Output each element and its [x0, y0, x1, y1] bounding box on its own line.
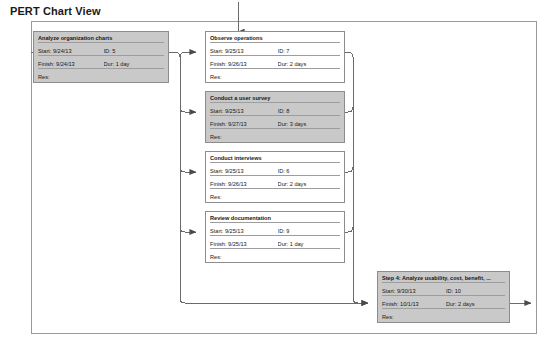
page-title: PERT Chart View	[10, 5, 101, 17]
node-res: Res:	[210, 194, 222, 200]
node-dur: Dur: 1 day	[278, 241, 340, 247]
node-finish-row: Finish: 9/26/13 Dur: 2 days	[206, 57, 344, 70]
node-finish: Finish: 9/26/13	[210, 61, 278, 67]
node-id: ID: 10	[446, 288, 505, 294]
row-divider	[38, 42, 164, 43]
node-dur: Dur: 2 days	[278, 181, 340, 187]
node-dur: Dur: 1 day	[104, 61, 164, 67]
node-title: Conduct interviews	[210, 155, 340, 161]
row-divider	[38, 55, 164, 56]
node-title-row: Analyze organization charts	[34, 32, 168, 44]
node-finish-row: Finish: 9/24/13 Dur: 1 day	[34, 57, 168, 70]
node-start: Start: 9/25/13	[210, 168, 278, 174]
node-start-row: Start: 9/30/13 ID: 10	[378, 284, 509, 297]
node-finish: Finish: 10/1/13	[382, 301, 446, 307]
row-divider	[210, 55, 340, 56]
node-res-row: Res:	[206, 70, 344, 83]
node-title: Observe operations	[210, 35, 340, 41]
node-dur: Dur: 2 days	[446, 301, 505, 307]
node-finish-row: Finish: 9/26/13 Dur: 2 days	[206, 177, 344, 190]
row-divider	[382, 282, 505, 283]
pert-node-conduct-a-user-survey[interactable]: Conduct a user survey Start: 9/25/13 ID:…	[205, 91, 345, 143]
node-title-row: Conduct interviews	[206, 152, 344, 164]
node-res: Res:	[382, 314, 394, 320]
node-title: Analyze organization charts	[38, 35, 164, 41]
row-divider	[210, 102, 340, 103]
pert-node-review-documentation[interactable]: Review documentation Start: 9/25/13 ID: …	[205, 211, 345, 263]
pert-node-analyze-organization-charts[interactable]: Analyze organization charts Start: 9/24/…	[33, 31, 169, 83]
row-divider	[38, 68, 164, 69]
node-start: Start: 9/25/13	[210, 228, 278, 234]
pert-node-observe-operations[interactable]: Observe operations Start: 9/25/13 ID: 7 …	[205, 31, 345, 83]
node-res: Res:	[210, 134, 222, 140]
node-id: ID: 7	[278, 48, 340, 54]
row-divider	[210, 68, 340, 69]
node-res-row: Res:	[206, 190, 344, 203]
row-divider	[210, 175, 340, 176]
row-divider	[210, 248, 340, 249]
node-title-row: Review documentation	[206, 212, 344, 224]
node-res: Res:	[210, 74, 222, 80]
node-dur: Dur: 3 days	[278, 121, 340, 127]
node-finish: Finish: 9/26/13	[210, 181, 278, 187]
node-id: ID: 5	[104, 48, 164, 54]
node-res-row: Res:	[206, 250, 344, 263]
row-divider	[210, 188, 340, 189]
node-start: Start: 9/24/13	[38, 48, 104, 54]
node-finish: Finish: 9/24/13	[38, 61, 104, 67]
node-start-row: Start: 9/25/13 ID: 6	[206, 164, 344, 177]
row-divider	[210, 222, 340, 223]
node-id: ID: 6	[278, 168, 340, 174]
node-start-row: Start: 9/25/13 ID: 9	[206, 224, 344, 237]
node-res-row: Res:	[378, 310, 509, 323]
node-start: Start: 9/30/13	[382, 288, 446, 294]
node-title-row: Step 4: Analyze usability, cost, benefit…	[378, 272, 509, 284]
node-title-row: Observe operations	[206, 32, 344, 44]
node-title: Step 4: Analyze usability, cost, benefit…	[382, 275, 505, 281]
node-id: ID: 8	[278, 108, 340, 114]
node-start: Start: 9/25/13	[210, 108, 278, 114]
node-res-row: Res:	[34, 70, 168, 83]
pert-node-conduct-interviews[interactable]: Conduct interviews Start: 9/25/13 ID: 6 …	[205, 151, 345, 203]
pert-node-step-4-analyze-usability[interactable]: Step 4: Analyze usability, cost, benefit…	[377, 271, 510, 323]
node-finish-row: Finish: 9/27/13 Dur: 3 days	[206, 117, 344, 130]
node-finish-row: Finish: 10/1/13 Dur: 2 days	[378, 297, 509, 310]
node-finish-row: Finish: 9/25/13 Dur: 1 day	[206, 237, 344, 250]
row-divider	[210, 235, 340, 236]
row-divider	[210, 115, 340, 116]
node-start: Start: 9/25/13	[210, 48, 278, 54]
row-divider	[382, 295, 505, 296]
node-title-row: Conduct a user survey	[206, 92, 344, 104]
row-divider	[210, 162, 340, 163]
node-id: ID: 9	[278, 228, 340, 234]
node-res: Res:	[210, 254, 222, 260]
row-divider	[382, 308, 505, 309]
node-start-row: Start: 9/25/13 ID: 7	[206, 44, 344, 57]
node-res-row: Res:	[206, 130, 344, 143]
node-dur: Dur: 2 days	[278, 61, 340, 67]
node-start-row: Start: 9/24/13 ID: 5	[34, 44, 168, 57]
row-divider	[210, 42, 340, 43]
node-finish: Finish: 9/25/13	[210, 241, 278, 247]
node-finish: Finish: 9/27/13	[210, 121, 278, 127]
row-divider	[210, 128, 340, 129]
node-start-row: Start: 9/25/13 ID: 8	[206, 104, 344, 117]
node-res: Res:	[38, 74, 50, 80]
node-title: Review documentation	[210, 215, 340, 221]
node-title: Conduct a user survey	[210, 95, 340, 101]
